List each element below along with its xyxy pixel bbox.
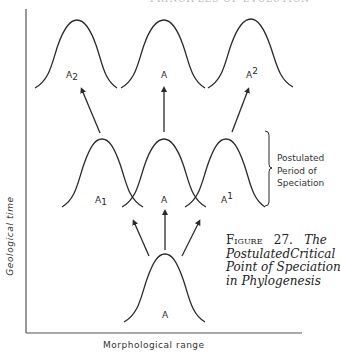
bracket-line: Postulated bbox=[277, 152, 324, 165]
speciation-bracket bbox=[265, 131, 272, 206]
caption-line: Point of Speciation bbox=[226, 261, 327, 275]
y-axis-label: Geological time bbox=[5, 196, 15, 275]
arrow-to-A-sup1 bbox=[182, 222, 199, 256]
label-A1: A1 bbox=[95, 195, 107, 207]
caption-word: Postulated bbox=[226, 248, 290, 262]
bracket-line: Speciation bbox=[277, 177, 324, 190]
bracket-annotation: Postulated Period of Speciation bbox=[277, 152, 324, 190]
label-A2: A2 bbox=[66, 70, 78, 82]
label-A-top: A bbox=[161, 70, 168, 80]
caption-figure-word: Figure bbox=[226, 234, 262, 248]
label-A-sup2: A2 bbox=[246, 66, 258, 80]
label-A-bottom: A bbox=[162, 310, 169, 320]
caption-word: Point of Speciation bbox=[226, 261, 341, 275]
label-A-mid: A bbox=[161, 195, 168, 205]
caption-heading: Figure 27. The bbox=[226, 234, 327, 248]
caption-word: Critical bbox=[290, 248, 335, 262]
arrow-to-A-sup2 bbox=[232, 90, 248, 132]
x-axis-label: Morphological range bbox=[103, 340, 205, 350]
caption-line: in Phylogenesis bbox=[226, 275, 327, 289]
arrow-to-A2 bbox=[82, 90, 100, 133]
label-A-sup1: A1 bbox=[221, 191, 233, 205]
caption-word: in Phylogenesis bbox=[226, 275, 321, 289]
arrow-to-A1 bbox=[134, 222, 149, 256]
figure-caption: Figure 27. The Postulated Critical Point… bbox=[226, 234, 327, 289]
caption-word: The bbox=[304, 234, 327, 248]
caption-line: Postulated Critical bbox=[226, 248, 327, 262]
caption-figure-number: 27. bbox=[274, 234, 293, 248]
bracket-line: Period of bbox=[277, 165, 324, 178]
